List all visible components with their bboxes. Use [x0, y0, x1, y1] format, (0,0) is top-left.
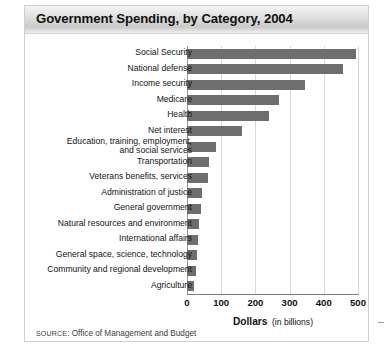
category-label: General space, science, technology	[56, 250, 192, 260]
source-note: SOURCE: Office of Management and Budget	[36, 329, 196, 338]
category-label: Veterans benefits, services	[89, 172, 192, 182]
page-edge-mark	[378, 322, 384, 323]
bar	[187, 126, 242, 136]
bar	[187, 111, 269, 121]
x-tick-label: 100	[213, 297, 229, 308]
x-axis-title-main: Dollars	[233, 316, 268, 327]
plot-area	[187, 46, 358, 294]
category-label: Transportation	[137, 157, 192, 167]
category-label: General government	[114, 203, 192, 213]
figure-panel: Government Spending, by Category, 2004 S…	[24, 5, 369, 342]
category-label: Medicare	[157, 95, 192, 105]
category-label: Agriculture	[151, 281, 192, 291]
category-label: Administration of justice	[101, 188, 192, 198]
title-band: Government Spending, by Category, 2004	[25, 6, 368, 34]
x-tick-label: 300	[282, 297, 298, 308]
bar	[187, 95, 279, 105]
category-label: Natural resources and environment	[58, 219, 192, 229]
x-tick-label: 0	[184, 297, 189, 308]
bar	[187, 49, 356, 59]
plot-wrapper: Social SecurityNational defenseIncome se…	[25, 34, 368, 341]
page-title: Government Spending, by Category, 2004	[36, 11, 293, 26]
x-tick-label: 200	[247, 297, 263, 308]
x-axis-title-unit: (in billions)	[272, 317, 313, 327]
x-tick-label: 500	[350, 297, 366, 308]
category-label: National defense	[128, 64, 193, 74]
category-label: Health	[167, 110, 192, 120]
x-tick-label: 400	[316, 297, 332, 308]
bar	[187, 64, 343, 74]
category-label: International affairs	[119, 234, 192, 244]
source-text: : Office of Management and Budget	[67, 329, 196, 338]
x-axis-line	[187, 294, 359, 295]
category-label: Social Security	[135, 48, 192, 58]
category-label: Net interest	[148, 126, 192, 136]
category-label: Community and regional development	[47, 265, 192, 275]
bar	[187, 80, 305, 90]
gridline-500	[358, 46, 359, 294]
x-axis-title: Dollars (in billions)	[187, 311, 359, 329]
category-label: Education, training, employment, and soc…	[67, 137, 192, 156]
gridline-400	[324, 46, 325, 294]
source-label: SOURCE	[36, 330, 67, 337]
category-label: Income security	[132, 79, 192, 89]
